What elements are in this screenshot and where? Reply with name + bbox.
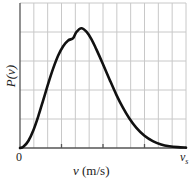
- x-tick-vs-sub: s: [185, 157, 188, 166]
- y-axis-label: P(v): [3, 61, 19, 91]
- chart: [0, 0, 193, 186]
- grid-lines: [20, 3, 186, 148]
- y-axis-label-text: P(v): [3, 65, 18, 87]
- x-axis-label-units: (m/s): [82, 163, 109, 178]
- x-tick-zero: 0: [16, 150, 22, 165]
- x-axis-label-var: v: [73, 163, 79, 178]
- x-axis-label: v (m/s): [73, 163, 109, 179]
- x-tick-vs: vs: [180, 150, 188, 166]
